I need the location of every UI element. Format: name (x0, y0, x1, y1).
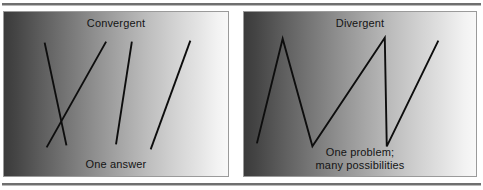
panel-convergent: Convergent One answer (3, 11, 229, 177)
divergent-line-art (244, 12, 476, 176)
convergent-line-3 (116, 42, 132, 145)
diagram-figure: Convergent One answer Divergent One prob… (0, 0, 483, 190)
panel-divergent: Divergent One problem; many possibilitie… (243, 11, 477, 177)
divergent-zigzag (257, 38, 438, 147)
convergent-line-art (4, 12, 228, 176)
convergent-line-4 (151, 41, 191, 150)
top-horizontal-rule (2, 3, 481, 5)
bottom-horizontal-rule (2, 183, 481, 185)
